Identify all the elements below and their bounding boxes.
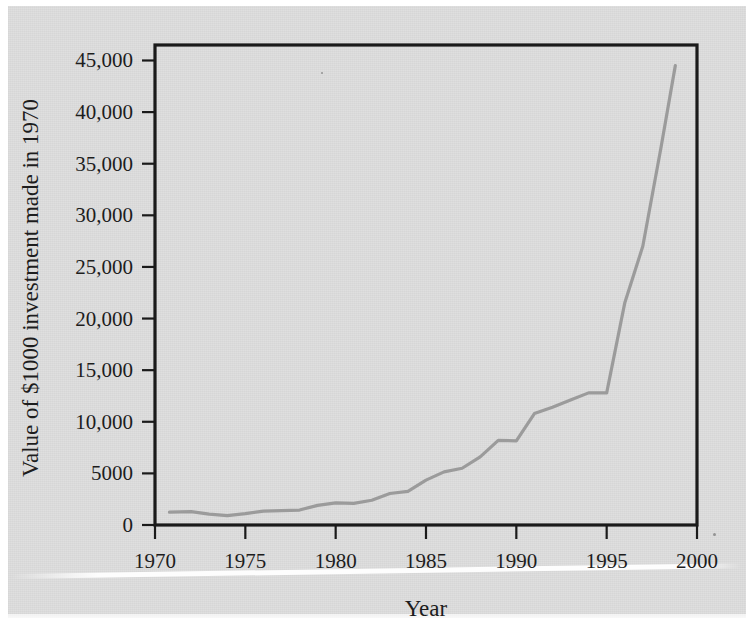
- y-axis-tick-label: 45,000: [75, 48, 133, 72]
- y-axis-tick-label: 10,000: [75, 410, 133, 434]
- y-axis-title: Value of $1000 investment made in 1970: [18, 99, 43, 477]
- x-axis-tick-label: 1985: [405, 549, 447, 573]
- x-axis-tick-label: 1980: [315, 549, 357, 573]
- x-axis-tick-label: 1970: [134, 549, 176, 573]
- x-axis-title: Year: [405, 596, 448, 621]
- x-axis-tick-label: 2000: [676, 549, 718, 573]
- data-series-line: [169, 66, 675, 516]
- y-axis-tick-marks: [142, 60, 155, 525]
- y-axis-tick-label: 30,000: [75, 203, 133, 227]
- y-axis-tick-label: 15,000: [75, 358, 133, 382]
- x-axis-tick-marks: [155, 525, 697, 539]
- y-axis-tick-label: 20,000: [75, 307, 133, 331]
- x-axis-tick-label: 1995: [586, 549, 628, 573]
- x-axis-tick-labels: 1970197519801985199019952000: [134, 549, 718, 573]
- x-axis-tick-label: 1990: [495, 549, 537, 573]
- plot-frame: [155, 45, 697, 525]
- y-axis-tick-label: 35,000: [75, 152, 133, 176]
- line-chart-figure: 0500010,00015,00020,00025,00030,00035,00…: [0, 0, 754, 638]
- screenshot-root: 0500010,00015,00020,00025,00030,00035,00…: [0, 0, 754, 638]
- y-axis-tick-label: 5000: [91, 461, 133, 485]
- y-axis-tick-label: 40,000: [75, 100, 133, 124]
- y-axis-tick-label: 0: [123, 513, 134, 537]
- y-axis-tick-label: 25,000: [75, 255, 133, 279]
- chart-canvas: 0500010,00015,00020,00025,00030,00035,00…: [0, 0, 754, 638]
- x-axis-tick-label: 1975: [224, 549, 266, 573]
- y-axis-tick-labels: 0500010,00015,00020,00025,00030,00035,00…: [75, 48, 133, 537]
